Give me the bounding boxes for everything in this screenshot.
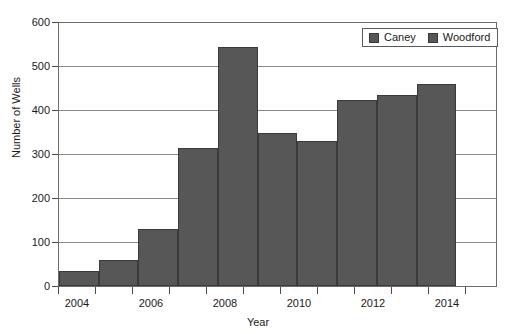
- x-axis-tick-mark: [58, 287, 59, 294]
- bar-2008: [218, 47, 258, 286]
- bar-2010: [297, 141, 337, 286]
- x-axis-tick-marks: [58, 287, 497, 297]
- x-axis-tick-mark: [132, 287, 133, 294]
- legend-swatch-icon: [428, 33, 438, 43]
- bars-layer: [59, 23, 496, 286]
- legend-label: Caney: [384, 32, 416, 43]
- bar-2007: [178, 148, 218, 286]
- bar-2005: [99, 260, 139, 286]
- bar-2011: [337, 100, 377, 286]
- x-axis-tick-mark: [169, 287, 170, 294]
- x-axis-tick-labels: 2004 2006 2008 2010 2012 2014: [0, 297, 516, 313]
- x-axis-tick-label: 2004: [47, 297, 107, 309]
- x-axis-tick-label: 2008: [195, 297, 255, 309]
- bar-chart: 600 500 400 300 200 100 0 Number of Well…: [0, 0, 516, 334]
- x-axis-tick-mark: [391, 287, 392, 294]
- x-axis-tick-mark: [243, 287, 244, 294]
- bar-2004: [59, 271, 99, 286]
- x-axis-tick-mark: [280, 287, 281, 294]
- x-axis-tick-label: 2012: [343, 297, 403, 309]
- x-axis-tick-mark: [206, 287, 207, 294]
- x-axis-tick-mark: [428, 287, 429, 294]
- bar-2013: [417, 84, 457, 286]
- legend-entry-woodford: Woodford: [428, 32, 491, 43]
- legend-label: Woodford: [443, 32, 491, 43]
- bar-2012: [377, 95, 417, 286]
- x-axis-tick-label: 2014: [417, 297, 477, 309]
- x-axis-tick-mark: [95, 287, 96, 294]
- x-axis-tick-mark: [465, 287, 466, 294]
- legend-swatch-icon: [369, 33, 379, 43]
- x-axis-tick-label: 2006: [121, 297, 181, 309]
- bar-2009: [258, 133, 298, 286]
- y-axis-title: Number of Wells: [11, 58, 22, 178]
- plot-area: Caney Woodford: [58, 22, 497, 287]
- bar-2006: [138, 229, 178, 286]
- x-axis-tick-mark: [354, 287, 355, 294]
- x-axis-tick-label: 2010: [269, 297, 329, 309]
- legend-entry-caney: Caney: [369, 32, 416, 43]
- legend: Caney Woodford: [362, 28, 498, 47]
- x-axis-tick-mark: [317, 287, 318, 294]
- x-axis-title: Year: [0, 316, 516, 328]
